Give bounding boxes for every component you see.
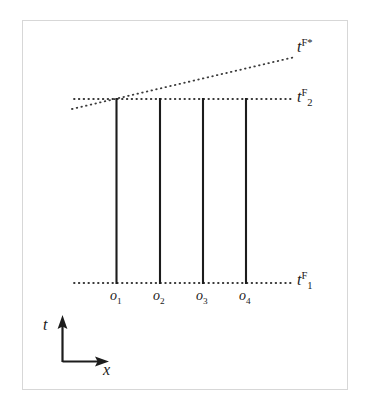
axis-label-t: t [43,316,47,334]
label-o1-subscript: 1 [117,296,122,306]
label-o2-subscript: 2 [160,296,165,306]
label-o1: o1 [110,288,122,304]
label-tF-1-subscript: 1 [307,280,312,291]
label-o3-base: o [196,288,203,303]
label-tF-2-subscript: 2 [307,97,312,108]
label-o3-subscript: 3 [203,296,208,306]
label-o4: o4 [239,288,251,304]
diagram-graphics [0,0,368,410]
label-o3: o3 [196,288,208,304]
label-tF-1: tF1 [297,271,313,289]
label-o4-base: o [239,288,246,303]
label-o4-subscript: 4 [246,296,251,306]
label-tF-2: tF2 [297,88,313,106]
label-tF-star: tF* [297,38,313,56]
axis-label-x: x [103,361,110,379]
line-tFstar [72,57,295,109]
label-o2: o2 [153,288,165,304]
label-o1-base: o [110,288,117,303]
figure-canvas: tF* tF2 tF1 o1 o2 o3 o4 t x [0,0,368,410]
label-o2-base: o [153,288,160,303]
label-tF-star-superscript: F* [301,37,312,48]
